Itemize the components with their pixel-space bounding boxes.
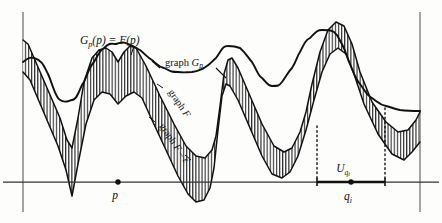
label-neighborhood-uqi: Uqi xyxy=(336,162,350,177)
math-figure-canvas: Gp(p) = F(p) graph Gp graph F graph F – … xyxy=(0,0,442,223)
figure-svg: Gp(p) = F(p) graph Gp graph F graph F – … xyxy=(0,0,442,223)
leader-line-graph-f xyxy=(157,84,163,88)
label-point-qi: qi xyxy=(344,190,352,205)
label-graph-gp: graph Gp xyxy=(165,57,203,70)
label-point-p: p xyxy=(111,189,118,202)
label-graph-f: graph F xyxy=(166,87,193,120)
point-p-dot xyxy=(115,179,120,184)
point-qi-dot xyxy=(348,179,353,184)
label-graph-f-group: graph F xyxy=(166,87,193,120)
marker-p xyxy=(115,179,120,184)
